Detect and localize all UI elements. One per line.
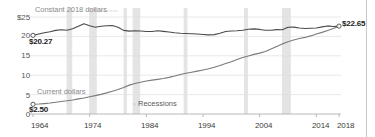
end-value-constant-dollars: $22.65	[342, 20, 365, 28]
series-label-current-dollars: Current dollars	[37, 88, 85, 96]
legend-recessions: Recessions	[133, 100, 177, 108]
x-axis-tick-1984: 1984	[141, 122, 158, 130]
recession-band-0	[67, 8, 73, 114]
start-value-constant-dollars: $20.27	[29, 38, 52, 46]
start-value-current-dollars: $2.50	[29, 106, 48, 114]
y-axis-tick-25: $25	[6, 14, 30, 22]
recession-band-4	[184, 8, 188, 114]
x-axis-tick-2004: 2004	[255, 122, 272, 130]
recession-band-1	[89, 8, 97, 114]
y-axis-tick-0: 0	[6, 111, 30, 119]
x-axis-tick-2014: 2014	[312, 122, 329, 130]
y-axis-tick-15: 15	[6, 52, 30, 60]
panel-right-border	[366, 0, 367, 137]
x-axis-tick-2018: 2018	[337, 122, 354, 130]
y-axis-tick-10: 10	[6, 72, 30, 80]
x-axis-tick-1974: 1974	[84, 122, 101, 130]
y-axis-tick-20: 20	[6, 32, 30, 40]
recession-band-5	[244, 8, 248, 114]
legend-recessions-label: Recessions	[138, 100, 177, 108]
recession-swatch-icon	[133, 103, 136, 106]
x-axis-tick-1964: 1964	[31, 122, 48, 130]
end-marker-constant-dollars	[337, 24, 341, 28]
series-label-constant-dollars: Constant 2018 dollars	[35, 6, 107, 14]
y-axis-tick-5: 5	[6, 92, 30, 100]
recession-band-6	[282, 8, 291, 114]
chart-plot-area	[0, 0, 375, 137]
recession-band-2	[124, 8, 127, 114]
x-axis-tick-1994: 1994	[198, 122, 215, 130]
wage-trend-chart: $25 20 15 10 5 0 1964 1974 1984 1994 200…	[0, 0, 375, 137]
